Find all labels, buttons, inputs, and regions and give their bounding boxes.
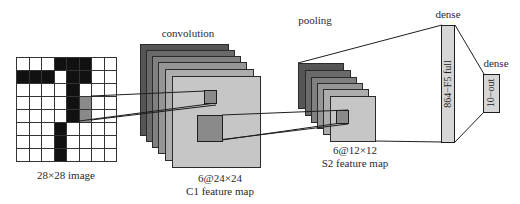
grid-cell	[54, 57, 68, 71]
grid-cell	[54, 70, 68, 84]
conv-kernel-output-square	[204, 90, 217, 104]
grid-cell	[91, 148, 105, 162]
grid-cell	[104, 96, 118, 110]
grid-cell	[16, 122, 30, 136]
conv-caption-size: 6@24×24	[180, 172, 260, 184]
grid-cell	[79, 109, 93, 123]
conv-pool-window-square	[197, 115, 223, 142]
dense2-title: dense	[476, 57, 516, 69]
grid-cell	[104, 122, 118, 136]
grid-cell	[16, 96, 30, 110]
pool-output-square	[336, 110, 349, 124]
grid-cell	[29, 135, 43, 149]
grid-cell	[29, 70, 43, 84]
grid-cell	[79, 70, 93, 84]
grid-cell	[16, 83, 30, 97]
grid-cell	[41, 148, 55, 162]
grid-cell	[91, 57, 105, 71]
grid-cell	[29, 109, 43, 123]
grid-cell	[29, 57, 43, 71]
pool-caption-name: S2 feature map	[305, 157, 405, 169]
grid-cell	[66, 109, 80, 123]
grid-cell	[66, 57, 80, 71]
grid-cell	[29, 83, 43, 97]
grid-cell	[104, 70, 118, 84]
conv-caption-name: C1 feature map	[170, 185, 270, 197]
grid-cell	[91, 135, 105, 149]
convolution-title: convolution	[150, 27, 226, 39]
grid-cell	[91, 70, 105, 84]
grid-cell	[41, 57, 55, 71]
grid-cell	[54, 83, 68, 97]
grid-cell	[41, 96, 55, 110]
input-image-label: 28×28 image	[20, 169, 112, 181]
grid-cell	[66, 148, 80, 162]
grid-cell	[91, 109, 105, 123]
grid-cell	[79, 96, 93, 110]
grid-cell	[66, 135, 80, 149]
grid-cell	[41, 122, 55, 136]
grid-cell	[54, 96, 68, 110]
grid-cell	[79, 135, 93, 149]
grid-cell	[66, 70, 80, 84]
grid-cell	[79, 148, 93, 162]
grid-cell	[79, 57, 93, 71]
grid-cell	[79, 122, 93, 136]
grid-cell	[54, 109, 68, 123]
grid-cell	[29, 122, 43, 136]
grid-cell	[104, 135, 118, 149]
dense1-title: dense	[428, 8, 468, 20]
grid-cell	[66, 96, 80, 110]
pool-caption-size: 6@12×12	[315, 144, 395, 156]
grid-cell	[79, 83, 93, 97]
grid-cell	[29, 148, 43, 162]
grid-cell	[41, 83, 55, 97]
grid-cell	[41, 109, 55, 123]
dense1-label: 864−F5 full	[442, 44, 454, 124]
grid-cell	[16, 109, 30, 123]
grid-cell	[16, 57, 30, 71]
input-image-grid	[16, 57, 116, 161]
grid-cell	[16, 148, 30, 162]
grid-cell	[104, 83, 118, 97]
grid-cell	[104, 148, 118, 162]
grid-cell	[54, 122, 68, 136]
pooling-title: pooling	[290, 14, 340, 26]
grid-cell	[41, 135, 55, 149]
grid-cell	[104, 109, 118, 123]
grid-cell	[104, 57, 118, 71]
grid-cell	[16, 135, 30, 149]
grid-cell	[16, 70, 30, 84]
grid-cell	[54, 148, 68, 162]
grid-cell	[29, 96, 43, 110]
grid-cell	[41, 70, 55, 84]
grid-cell	[91, 122, 105, 136]
grid-cell	[66, 122, 80, 136]
grid-cell	[66, 83, 80, 97]
grid-cell	[54, 135, 68, 149]
cnn-diagram: 28×28 image convolution 6@24×24 C1 featu…	[0, 0, 520, 204]
grid-cell	[91, 83, 105, 97]
grid-cell	[91, 96, 105, 110]
dense2-label: 10−out	[485, 73, 497, 113]
